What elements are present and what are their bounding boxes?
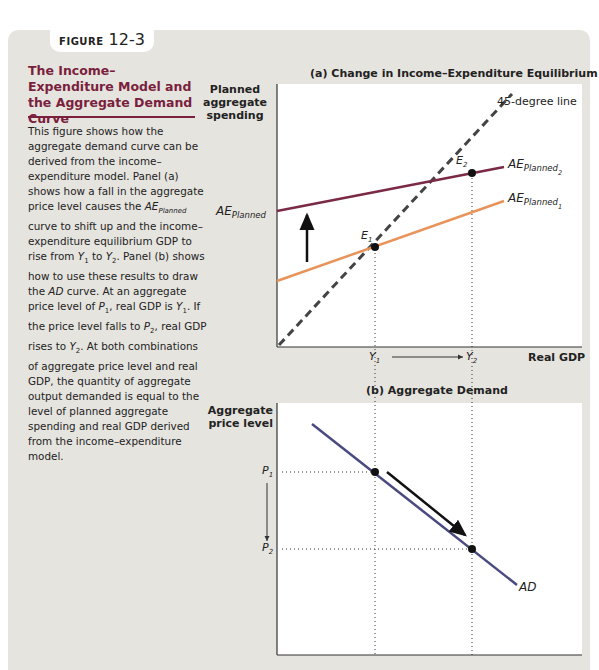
ae-planned-1-label: AEPlanned1 [508,191,562,207]
movement-along-ad-arrow-icon [387,472,465,535]
line-45-label: 45-degree line [497,95,577,108]
p1-label: P1 [262,464,273,479]
line-45-degree [279,94,512,345]
ae-planned-1-curve [277,201,504,281]
x-axis-label-real-gdp: Real GDP [528,351,585,364]
y1-label: Y1 [369,350,380,365]
ae-planned-2-label: AEPlanned2 [508,157,562,173]
p2-label: P2 [262,541,273,556]
ad-point-2 [468,545,476,553]
ad-curve [312,424,517,585]
e2-label: E2 [456,154,467,169]
e1-label: E1 [361,229,372,244]
e2-point [468,169,476,177]
ad-point-1 [371,468,379,476]
e1-point [371,243,379,251]
y2-label: Y2 [466,350,477,365]
ae-planned-intercept-label: AEPlanned [216,204,266,220]
ad-label: AD [519,580,536,594]
